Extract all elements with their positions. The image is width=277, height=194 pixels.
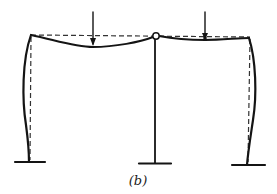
original-left-column [30, 37, 31, 160]
original-beam-line [31, 35, 250, 37]
right-column [247, 38, 255, 165]
original-shape [30, 35, 250, 162]
hinge-icon [153, 33, 159, 39]
figure-caption: (b) [129, 173, 147, 188]
right-load-arrow [202, 12, 208, 40]
portal-frame-diagram: (b) [0, 0, 277, 194]
deflected-shape [23, 35, 255, 165]
arrow-down-icon [90, 38, 96, 46]
left-load-arrow [90, 12, 96, 46]
load-point-dot [203, 36, 207, 40]
